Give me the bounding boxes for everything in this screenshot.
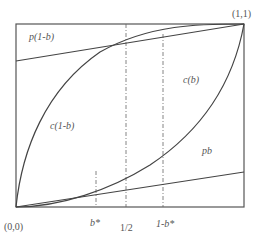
- line-pb: [16, 172, 244, 207]
- label-p-one-minus-b: p(1-b): [28, 31, 55, 43]
- label-c-one-minus-b: c(1-b): [50, 120, 75, 132]
- tick-b-star: b*: [90, 217, 100, 228]
- label-c-b: c(b): [183, 74, 200, 86]
- diagram-canvas: (0,0) (1,1) p(1-b) c(b) c(1-b) pb b* 1/2…: [0, 0, 261, 236]
- plot-frame: [16, 24, 244, 207]
- curve-c-one-minus-b: [16, 24, 244, 207]
- label-origin: (0,0): [4, 221, 23, 233]
- tick-half: 1/2: [120, 222, 133, 233]
- label-pb: pb: [201, 145, 212, 156]
- tick-one-minus-b-star: 1-b*: [156, 218, 174, 229]
- curve-c-b: [16, 24, 244, 207]
- line-p-one-minus-b: [16, 24, 244, 61]
- label-top-right: (1,1): [232, 8, 251, 20]
